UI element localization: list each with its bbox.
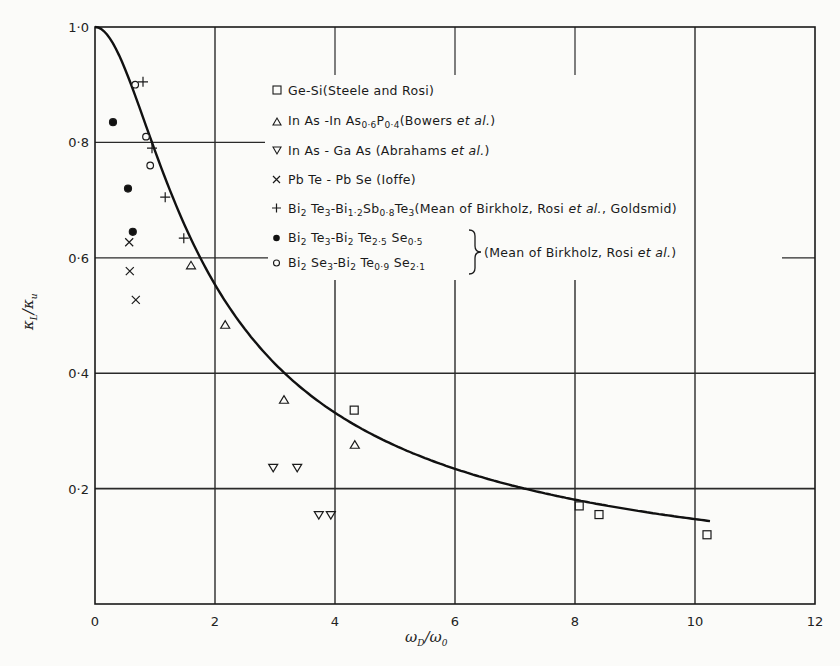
brace-icon [469, 230, 481, 274]
legend-inas-inasp: In As -In As0·6P0·4(Bowers et al.) [288, 113, 495, 130]
x-tick-label: 6 [451, 614, 459, 629]
legend-pbte-pbse: Pb Te - Pb Se (Ioffe) [288, 172, 416, 187]
x-axis-label: ωD/ω0 [405, 628, 448, 648]
square-marker-icon [595, 511, 603, 519]
triangle-down-marker-icon [314, 512, 323, 520]
filled-circle-marker-icon [125, 185, 132, 192]
triangle-down-marker-icon [326, 512, 335, 520]
x-marker-icon [132, 296, 140, 304]
triangle-up-marker-icon [187, 261, 196, 269]
y-tick-label: 1·0 [68, 20, 89, 35]
square-marker-icon [703, 531, 711, 539]
triangle-up-marker-icon [350, 441, 359, 449]
legend-bite-bisbte: Bi2 Te3-Bi1·2Sb0·8Te3(Mean of Birkholz, … [288, 201, 677, 218]
filled-circle-marker-icon [273, 235, 280, 242]
x-tick-label: 2 [211, 614, 219, 629]
chart-plot: 0246810120·20·40·60·81·0 ωD/ω0 κL/κu Ge-… [0, 0, 840, 666]
y-tick-label: 0·8 [68, 135, 89, 150]
x-tick-label: 10 [687, 614, 704, 629]
square-marker-icon [350, 406, 358, 414]
plus-marker-icon [138, 77, 148, 87]
open-circle-marker-icon [274, 260, 280, 266]
square-marker-icon [575, 502, 583, 510]
legend-inas-gaas: In As - Ga As (Abrahams et al.) [288, 143, 490, 158]
filled-circle-marker-icon [129, 228, 136, 235]
x-marker-icon [126, 267, 134, 275]
triangle-down-marker-icon [293, 464, 302, 472]
y-tick-label: 0·4 [68, 366, 89, 381]
y-axis-label: κL/κu [19, 293, 39, 331]
legend: Ge-Si(Steele and Rosi) In As -In As0·6P0… [272, 83, 677, 274]
triangle-down-marker-icon [269, 464, 278, 472]
y-tick-label: 0·6 [68, 251, 89, 266]
triangle-up-marker-icon [221, 321, 230, 329]
open-circle-marker-icon [132, 81, 139, 88]
plus-marker-icon [272, 204, 281, 213]
filled-circle-marker-icon [110, 119, 117, 126]
x-marker-icon [273, 176, 280, 183]
triangle-up-marker-icon [273, 118, 281, 125]
legend-ge-si: Ge-Si(Steele and Rosi) [288, 83, 434, 98]
plus-marker-icon [160, 192, 170, 202]
triangle-up-marker-icon [280, 396, 289, 404]
x-tick-label: 8 [571, 614, 579, 629]
open-circle-marker-icon [147, 162, 154, 169]
x-marker-icon [125, 238, 133, 246]
square-marker-icon [273, 86, 281, 94]
x-tick-label: 0 [91, 614, 99, 629]
legend-bite-bitese: Bi2 Te3-Bi2 Te2·5 Se0·5 [288, 230, 423, 247]
x-tick-label: 4 [331, 614, 339, 629]
theory-curve [95, 27, 710, 521]
open-circle-marker-icon [143, 133, 150, 140]
tick-labels: 0246810120·20·40·60·81·0 [68, 20, 823, 629]
y-tick-label: 0·2 [68, 482, 89, 497]
triangle-down-marker-icon [273, 147, 281, 154]
x-tick-label: 12 [807, 614, 824, 629]
plus-marker-icon [179, 233, 189, 243]
legend-brace-note: (Mean of Birkholz, Rosi et al.) [484, 245, 677, 260]
legend-bise-bitese: Bi2 Se3-Bi2 Te0·9 Se2·1 [288, 255, 425, 272]
